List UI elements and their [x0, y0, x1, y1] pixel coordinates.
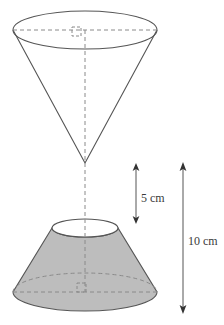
total-height-label: 10 cm: [188, 234, 218, 248]
top-right-angle-marker: [72, 27, 81, 36]
small-height-dimension-group: 5 cm: [133, 163, 166, 224]
small-height-label: 5 cm: [141, 191, 165, 205]
figure-canvas: 5 cm 10 cm: [0, 0, 224, 325]
geometry-figure: 5 cm 10 cm: [0, 0, 224, 325]
cone-base-back-arc: [13, 11, 157, 30]
total-height-dimension-group: 10 cm: [180, 162, 219, 314]
